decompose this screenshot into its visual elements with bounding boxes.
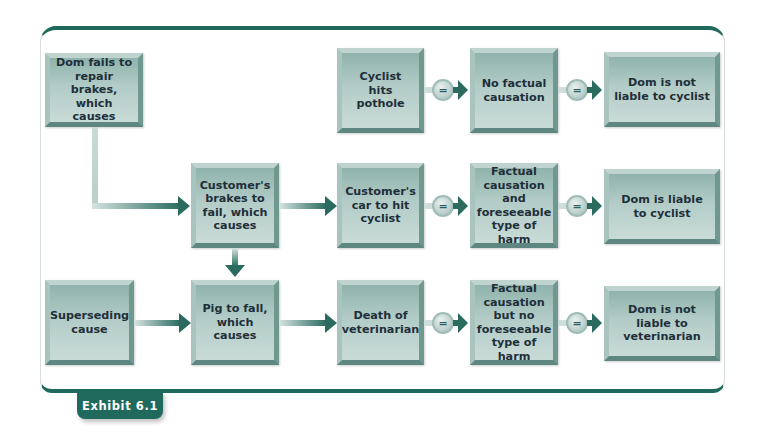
equals-link: =: [558, 195, 602, 217]
node-liable-cyclist: Dom is liable to cyclist: [604, 169, 720, 244]
node-not-liable-vet: Dom is not liable to veterinarian: [604, 286, 720, 361]
arrowhead-icon: [458, 313, 468, 333]
equals-link: =: [424, 312, 468, 334]
arrowhead-icon: [325, 313, 337, 333]
arrowhead-icon: [325, 196, 337, 216]
arrowhead-icon: [592, 80, 602, 100]
equals-icon: =: [566, 312, 588, 334]
arrowhead-icon: [592, 313, 602, 333]
node-brakes-fail: Customer's brakes to fail, which causes: [191, 163, 279, 248]
equals-icon: =: [566, 79, 588, 101]
equals-icon: =: [432, 195, 454, 217]
arrowhead-icon: [458, 196, 468, 216]
node-cyclist-pothole: Cyclist hits pothole: [337, 48, 424, 133]
equals-link: =: [558, 79, 602, 101]
node-death-vet: Death of veterinarian: [337, 280, 424, 365]
arrowhead-icon: [225, 265, 245, 277]
equals-link: =: [558, 312, 602, 334]
node-factual-not-foreseeable: Factual causation but no foreseeable typ…: [470, 280, 558, 365]
node-dom-fails: Dom fails to repair brakes, which causes: [45, 53, 143, 127]
equals-icon: =: [432, 312, 454, 334]
equals-link: =: [424, 79, 468, 101]
node-no-factual-causation: No factual causation: [470, 48, 558, 133]
arrowhead-icon: [178, 196, 190, 216]
equals-icon: =: [566, 195, 588, 217]
equals-icon: =: [432, 79, 454, 101]
node-car-hits-cyclist: Customer's car to hit cyclist: [337, 163, 424, 248]
equals-link: =: [424, 195, 468, 217]
node-factual-and-foreseeable: Factual causation and foreseeable type o…: [470, 163, 558, 248]
node-superseding-cause: Superseding cause: [45, 280, 134, 365]
node-not-liable-cyclist: Dom is not liable to cyclist: [604, 52, 720, 127]
arrowhead-icon: [179, 313, 191, 333]
exhibit-label: Exhibit 6.1: [77, 392, 163, 419]
arrowhead-icon: [592, 196, 602, 216]
arrowhead-icon: [458, 80, 468, 100]
node-pig-fall: Pig to fall, which causes: [191, 280, 279, 365]
